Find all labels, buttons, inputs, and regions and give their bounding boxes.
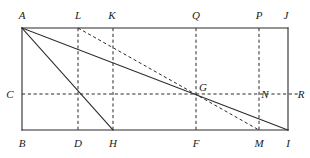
vertex-label-n: N xyxy=(261,89,268,100)
vertex-label-a: A xyxy=(19,10,26,21)
vertex-label-k: K xyxy=(108,10,115,21)
vertex-label-l: L xyxy=(75,10,81,21)
diagonal-A-to-I xyxy=(22,28,288,130)
vertex-label-f: F xyxy=(193,138,200,149)
vertex-label-c: C xyxy=(6,89,13,100)
vertex-label-i: I xyxy=(286,138,290,149)
diagram-canvas xyxy=(0,0,310,158)
solid-lines-group xyxy=(22,28,288,130)
segment-A-to-H xyxy=(22,28,113,130)
vertex-label-q: Q xyxy=(192,10,200,21)
geometry-figure: ALKQPJCGNRBDHFMI xyxy=(0,0,310,158)
vertex-label-p: P xyxy=(256,10,263,21)
segment-L-to-M xyxy=(78,28,259,130)
vertex-label-b: B xyxy=(19,138,26,149)
vertex-label-r: R xyxy=(298,89,305,100)
vertex-label-m: M xyxy=(254,138,263,149)
vertex-label-j: J xyxy=(284,10,289,21)
vertex-label-d: D xyxy=(74,138,82,149)
vertex-label-g: G xyxy=(199,82,207,93)
dashed-lines-group xyxy=(22,28,300,130)
vertex-label-h: H xyxy=(109,138,117,149)
